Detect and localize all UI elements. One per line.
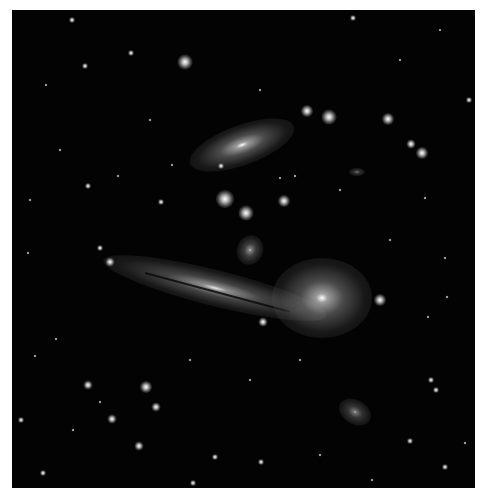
small-galaxy-right bbox=[349, 168, 365, 176]
star bbox=[407, 438, 413, 444]
star bbox=[108, 415, 117, 424]
star bbox=[399, 59, 402, 62]
star bbox=[446, 296, 449, 299]
star bbox=[239, 206, 254, 221]
star bbox=[171, 164, 174, 167]
star bbox=[69, 17, 75, 23]
star bbox=[424, 197, 427, 200]
star bbox=[40, 470, 46, 476]
star bbox=[427, 316, 430, 319]
star bbox=[433, 387, 439, 393]
star bbox=[416, 147, 428, 159]
star bbox=[216, 190, 234, 208]
star bbox=[279, 177, 282, 180]
star bbox=[135, 442, 144, 451]
star bbox=[149, 119, 152, 122]
star bbox=[55, 338, 58, 341]
star bbox=[294, 175, 297, 178]
star bbox=[152, 403, 161, 412]
star bbox=[106, 258, 115, 267]
star bbox=[407, 140, 416, 149]
star bbox=[249, 379, 252, 382]
star bbox=[85, 183, 91, 189]
star bbox=[82, 63, 88, 69]
star bbox=[442, 464, 448, 470]
star bbox=[190, 480, 196, 486]
star bbox=[29, 199, 32, 202]
star bbox=[444, 257, 447, 260]
spiral-galaxy-upper bbox=[183, 107, 300, 182]
star bbox=[464, 442, 467, 445]
star bbox=[99, 401, 102, 404]
star bbox=[371, 479, 374, 482]
star bbox=[34, 355, 37, 358]
star bbox=[189, 359, 192, 362]
star bbox=[258, 459, 264, 465]
star bbox=[278, 195, 290, 207]
star bbox=[59, 149, 62, 152]
star bbox=[72, 429, 75, 432]
star bbox=[218, 163, 224, 169]
star bbox=[178, 55, 193, 70]
star bbox=[299, 359, 302, 362]
galaxy-field-image bbox=[12, 10, 475, 488]
star bbox=[428, 377, 434, 383]
star bbox=[389, 239, 392, 242]
star bbox=[84, 381, 93, 390]
star bbox=[439, 29, 442, 32]
star bbox=[466, 97, 472, 103]
star bbox=[18, 417, 24, 423]
star bbox=[382, 113, 394, 125]
star bbox=[374, 294, 386, 306]
star bbox=[322, 110, 337, 125]
star bbox=[212, 454, 218, 460]
star bbox=[158, 199, 164, 205]
star bbox=[259, 318, 268, 327]
star bbox=[117, 175, 120, 178]
elliptical-galaxy-lower bbox=[334, 393, 375, 431]
star bbox=[319, 454, 322, 457]
star bbox=[97, 245, 103, 251]
star bbox=[128, 50, 134, 56]
star bbox=[339, 189, 342, 192]
star bbox=[301, 105, 313, 117]
star bbox=[27, 252, 30, 255]
star bbox=[140, 381, 152, 393]
star bbox=[350, 15, 356, 21]
star bbox=[45, 84, 48, 87]
small-spiral-galaxy bbox=[233, 231, 268, 268]
elliptical-galaxy-bright bbox=[272, 258, 372, 338]
star bbox=[259, 89, 262, 92]
